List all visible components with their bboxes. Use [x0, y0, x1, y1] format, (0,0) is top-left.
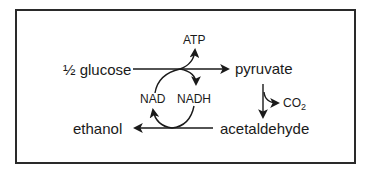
nadh-to-nad-arrow	[153, 106, 194, 128]
glucose-label: ½ glucose	[63, 62, 131, 77]
co2-label: CO2	[283, 97, 306, 112]
nad-label: NAD	[140, 93, 165, 105]
pathway-arrows	[0, 0, 369, 171]
ethanol-label: ethanol	[73, 121, 122, 136]
nad-to-nadh-arrow	[155, 69, 196, 93]
acetaldehyde-label: acetaldehyde	[220, 121, 309, 136]
atp-label: ATP	[183, 34, 205, 46]
co2-subscript: 2	[301, 102, 306, 112]
atp-branch-arrow	[180, 50, 195, 69]
pyruvate-label: pyruvate	[235, 61, 293, 76]
co2-text: CO	[283, 96, 301, 110]
nadh-label: NADH	[177, 93, 211, 105]
co2-branch-arrow	[264, 92, 278, 103]
